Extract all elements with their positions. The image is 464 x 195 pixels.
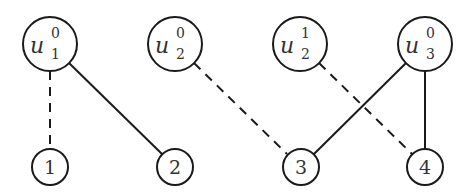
node-u1_0: u 0 1 (23, 17, 77, 71)
edges (50, 63, 425, 154)
edge-u2_0-n3 (194, 63, 287, 154)
node-label-base: u (155, 33, 169, 58)
node-label-base: u (405, 33, 419, 58)
node-4: 4 (407, 149, 443, 185)
node-1: 1 (32, 149, 68, 185)
node-label-subscript: 2 (301, 46, 310, 62)
edge-u2_1-n4 (319, 63, 412, 154)
node-label-superscript: 1 (301, 25, 310, 41)
node-2: 2 (157, 149, 193, 185)
node-label: 3 (295, 156, 307, 178)
node-label: 2 (169, 156, 181, 178)
node-u2_0: u 0 2 (148, 17, 202, 71)
node-label-base: u (280, 33, 294, 58)
node-label-superscript: 0 (176, 25, 185, 41)
node-3: 3 (283, 149, 319, 185)
node-label-base: u (30, 33, 44, 58)
bipartite-graph-diagram: u 0 1 u 0 2 u 1 2 u 0 3 1 2 3 4 (0, 0, 464, 195)
edge-u1_0-n2 (69, 63, 162, 154)
node-u2_1: u 1 2 (273, 17, 327, 71)
node-label-subscript: 2 (176, 46, 185, 62)
node-label-superscript: 0 (426, 25, 435, 41)
node-label-subscript: 3 (426, 46, 435, 62)
node-label: 4 (419, 156, 431, 178)
node-label: 1 (44, 156, 56, 178)
node-label-subscript: 1 (51, 46, 60, 62)
node-label-superscript: 0 (51, 25, 60, 41)
node-u3_0: u 0 3 (398, 17, 452, 71)
edge-u3_0-n3 (314, 63, 406, 154)
